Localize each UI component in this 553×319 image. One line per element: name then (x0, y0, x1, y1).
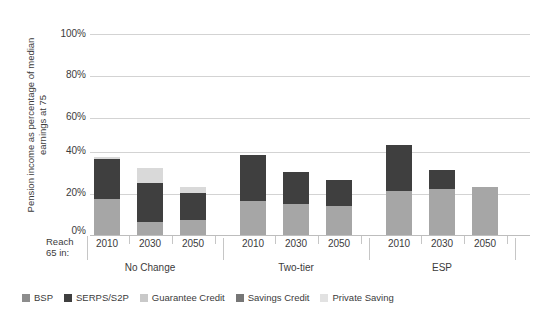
legend-item-savings-credit[interactable]: Savings Credit (236, 292, 310, 303)
bar-segment-serps-s2p (283, 172, 309, 204)
legend-swatch-icon (320, 294, 328, 302)
group-separator-1 (223, 238, 224, 260)
x-axis-tick-1 (129, 236, 130, 244)
x-axis-tick-3 (215, 236, 216, 244)
bar-segment-guarantee-credit (240, 201, 266, 235)
bar-segment-guarantee-credit (326, 206, 352, 235)
bar-segment-serps-s2p (180, 193, 206, 220)
bar-segment-serps-s2p (386, 145, 412, 191)
bar-segment-guarantee-credit (94, 199, 120, 235)
x-tick-label-2: 2050 (168, 238, 218, 249)
x-axis-tick-7 (421, 236, 422, 244)
legend-label: Savings Credit (248, 292, 310, 303)
x-axis-tick-4 (275, 236, 276, 244)
bar-no-change-2030[interactable] (137, 168, 163, 235)
bar-segment-guarantee-credit (283, 204, 309, 236)
bar-esp-2050[interactable] (472, 187, 498, 235)
chart-container: Pension income as percentage of median e… (0, 0, 553, 319)
legend-swatch-icon (22, 294, 30, 302)
group-separator-0 (87, 238, 88, 260)
bar-no-change-2010[interactable] (94, 157, 120, 235)
chart-legend: BSPSERPS/S2PGuarantee CreditSavings Cred… (22, 292, 394, 303)
bar-segment-private-saving (137, 168, 163, 183)
bar-series-layer (90, 20, 530, 236)
bar-segment-serps-s2p (94, 159, 120, 199)
y-axis-title: Pension income as percentage of median e… (25, 25, 49, 225)
group-label-two-tier: Two-tier (226, 262, 366, 273)
legend-label: BSP (34, 292, 53, 303)
y-tick-label-100: 100% (58, 28, 86, 39)
legend-item-serps-s2p[interactable]: SERPS/S2P (64, 292, 129, 303)
x-axis-tick-2 (172, 236, 173, 244)
bar-two-tier-2030[interactable] (283, 172, 309, 235)
bar-segment-guarantee-credit (472, 187, 498, 235)
legend-swatch-icon (140, 294, 148, 302)
bar-no-change-2050[interactable] (180, 187, 206, 235)
bar-segment-serps-s2p (240, 155, 266, 201)
x-axis-categories: 201020302050201020302050201020302050 (90, 238, 530, 254)
bar-segment-guarantee-credit (180, 220, 206, 235)
bar-segment-serps-s2p (326, 180, 352, 205)
group-label-esp: ESP (372, 262, 512, 273)
bar-segment-guarantee-credit (386, 191, 412, 235)
y-tick-label-80: 80% (58, 69, 86, 80)
bar-two-tier-2050[interactable] (326, 180, 352, 235)
plot-area (90, 20, 530, 236)
y-tick-label-60: 60% (58, 111, 86, 122)
y-tick-label-0: 0% (58, 225, 86, 236)
group-separator-2 (369, 238, 370, 260)
bar-segment-guarantee-credit (429, 189, 455, 235)
x-axis-tick-6 (361, 236, 362, 244)
x-axis-tick-9 (507, 236, 508, 244)
x-tick-label-8: 2050 (460, 238, 510, 249)
y-tick-label-40: 40% (58, 145, 86, 156)
bar-esp-2030[interactable] (429, 170, 455, 235)
legend-item-guarantee-credit[interactable]: Guarantee Credit (140, 292, 225, 303)
legend-swatch-icon (64, 294, 72, 302)
group-label-no-change: No Change (80, 262, 220, 273)
x-tick-label-5: 2050 (314, 238, 364, 249)
x-axis-groups: No ChangeTwo-tierESP (90, 262, 530, 280)
legend-swatch-icon (236, 294, 244, 302)
legend-item-bsp[interactable]: BSP (22, 292, 53, 303)
bar-esp-2010[interactable] (386, 145, 412, 235)
bar-segment-guarantee-credit (137, 222, 163, 235)
bar-two-tier-2010[interactable] (240, 155, 266, 235)
bar-segment-serps-s2p (429, 170, 455, 189)
x-axis-tick-8 (464, 236, 465, 244)
legend-label: SERPS/S2P (76, 292, 129, 303)
bar-segment-serps-s2p (137, 183, 163, 223)
legend-item-private-saving[interactable]: Private Saving (320, 292, 393, 303)
legend-label: Private Saving (332, 292, 393, 303)
legend-label: Guarantee Credit (152, 292, 225, 303)
group-separator-3 (515, 238, 516, 260)
x-axis-tick-5 (318, 236, 319, 244)
y-tick-label-20: 20% (58, 187, 86, 198)
